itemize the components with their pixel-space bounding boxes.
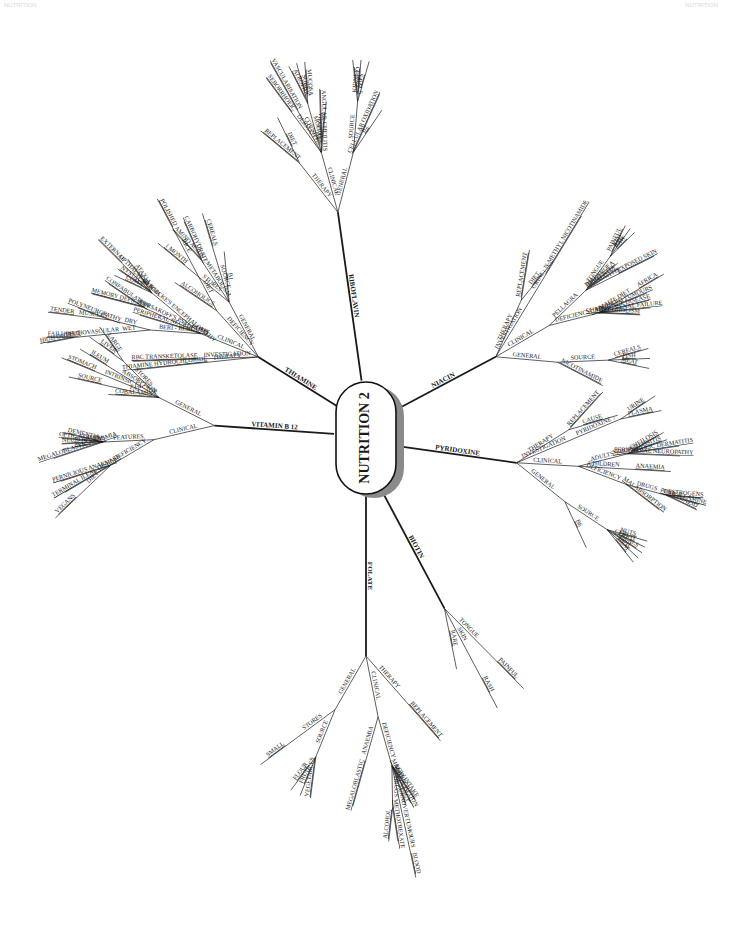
node-general: GENERAL [530, 467, 557, 491]
node-deficiency: DEFICIENCY [381, 721, 398, 759]
node-replacement: REPLACEMENT [410, 700, 445, 739]
center-node-label: NUTRITION 2 [357, 392, 372, 483]
node-megaloblastic: MEGALOBLASTIC [344, 758, 365, 810]
node-cobalamin: COBALAMIN [115, 387, 153, 396]
branch-pyridoxine-label: PYRIDOXINE [435, 443, 481, 457]
node-source: SOURCE [570, 353, 595, 361]
node-anaemia: ANAEMIA [360, 725, 375, 756]
node-wet: WET [122, 323, 136, 331]
branch-thiamine-label: THIAMINE [283, 366, 319, 393]
branch-folate-label: FOLATE [366, 562, 374, 591]
center-node[interactable]: NUTRITION 2 [336, 382, 404, 498]
node-anaemia: ANAEMIA [635, 462, 665, 471]
node-beri-beri: BERI - BERI [159, 323, 193, 332]
node-cereals: CEREALS [205, 218, 220, 247]
node-replacement: REPLACEMENT [514, 251, 528, 297]
node-therapy: THERAPY [378, 663, 402, 689]
node-exposed-skin: EXPOSED SKIN [615, 247, 658, 273]
node-n-methyl-nicotinamide: ↓ N-METHYL NICOTINAMIDE [539, 198, 589, 274]
node-general: GENERAL [336, 666, 357, 695]
edge-general [335, 656, 366, 710]
edge-general [517, 463, 565, 502]
branch-vitamin-b-12-label: VITAMIN B 12 [251, 420, 298, 431]
node-blood: BLOOD [412, 852, 423, 875]
node-clinical: CLINICAL [533, 456, 562, 465]
node-malabsorption: MALABSORPTION [622, 475, 669, 513]
node-polished: POLISHED [159, 197, 179, 227]
node-alcohol: ALCOHOL [381, 809, 391, 839]
node-external: EXTERNAL [99, 234, 127, 262]
node-painful: PAINFUL [498, 656, 521, 679]
edge-drugs [392, 766, 393, 808]
mind-map: THIAMINEGENERALB1SOURCECEREALSMETABOLISM… [0, 0, 738, 925]
